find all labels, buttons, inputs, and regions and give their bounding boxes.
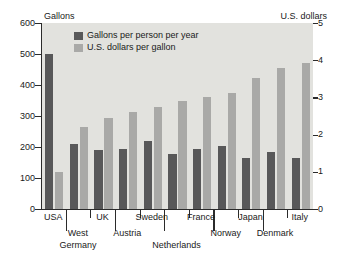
bar-gallons [144,141,152,209]
bar-dollars [80,127,88,209]
bar-gallons [292,158,300,209]
legend-swatch-light-icon [74,44,83,52]
category-label: Italy [255,212,345,223]
bar-dollars [154,107,162,209]
right-tick-label-5: 5 [318,19,342,28]
right-tick-label-1: 1 [318,167,342,176]
chart-figure: Gallons U.S. dollars 0100200300400500600… [0,0,349,269]
bar-gallons [70,144,78,209]
right-tick-label-4: 4 [318,56,342,65]
bar-dollars [228,93,236,209]
legend-label-dollars: U.S. dollars per gallon [87,43,176,52]
bar-group [288,23,313,209]
legend-label-gallons: Gallons per person per year [87,31,199,40]
bar-group [264,23,289,209]
category-label: Netherlands [132,240,222,251]
bar-dollars [203,97,211,209]
bar-group [214,23,239,209]
bar-gallons [94,150,102,209]
right-tick-label-2: 2 [318,130,342,139]
legend-item-gallons: Gallons per person per year [74,30,199,41]
bar-gallons [218,146,226,209]
bar-gallons [168,154,176,209]
bar-dollars [302,63,310,209]
bar-dollars [277,68,285,209]
bar-gallons [119,149,127,209]
legend-swatch-dark-icon [74,32,83,40]
bar-gallons [267,152,275,209]
bar-dollars [178,101,186,209]
left-axis-caption: Gallons [44,11,75,21]
bar-gallons [242,158,250,209]
bar-group [239,23,264,209]
left-tick-label-400: 400 [0,81,35,90]
bar-dollars [129,112,137,209]
legend-item-dollars: U.S. dollars per gallon [74,42,199,53]
category-label: Denmark [230,228,320,239]
bar-gallons [45,54,53,209]
category-label: Austria [82,228,172,239]
right-tick-label-3: 3 [318,93,342,102]
bar-gallons [193,149,201,209]
left-tick-label-600: 600 [0,19,35,28]
chart-legend: Gallons per person per year U.S. dollars… [74,30,199,54]
bar-dollars [55,172,63,209]
bar-dollars [104,118,112,209]
left-tick-label-300: 300 [0,112,35,121]
left-tick-label-200: 200 [0,143,35,152]
left-tick-label-100: 100 [0,174,35,183]
bar-dollars [252,78,260,209]
left-tick-label-500: 500 [0,50,35,59]
category-label: Germany [33,240,123,251]
bar-group [42,23,67,209]
